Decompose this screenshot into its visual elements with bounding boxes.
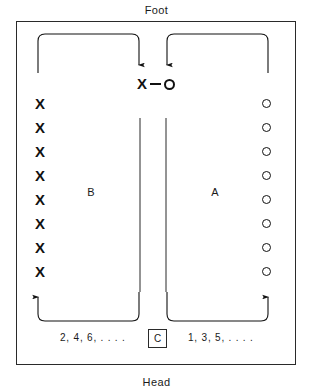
bed-mark-o xyxy=(262,116,271,140)
center-pair-o-mark xyxy=(164,79,175,90)
bed-mark-x: X xyxy=(35,188,45,212)
station-label-c: C xyxy=(148,329,167,348)
bed-mark-x: X xyxy=(35,236,45,260)
head-orientation-label: Head xyxy=(0,375,313,389)
bed-mark-o xyxy=(262,260,271,284)
bed-mark-x: X xyxy=(35,116,45,140)
bed-mark-x: X xyxy=(35,260,45,284)
bed-mark-x: X xyxy=(35,140,45,164)
center-pair-connector xyxy=(150,83,161,85)
bed-mark-o xyxy=(262,140,271,164)
section-b-mark-column: X X X X X X X X xyxy=(29,92,51,284)
section-label-a: A xyxy=(205,186,225,198)
bed-mark-x: X xyxy=(35,212,45,236)
center-bed-pair: X xyxy=(126,74,186,94)
bed-mark-o xyxy=(262,188,271,212)
center-pair-x-mark: X xyxy=(137,74,147,94)
bed-mark-o xyxy=(262,92,271,116)
ward-diagram: Foot X X X X X X X X xyxy=(0,0,313,392)
bed-numbers-even-label: 2, 4, 6, . . . . xyxy=(60,332,126,343)
bed-mark-x: X xyxy=(35,164,45,188)
section-label-b: B xyxy=(81,186,101,198)
bed-mark-o xyxy=(262,212,271,236)
foot-orientation-label: Foot xyxy=(0,3,313,17)
bed-numbers-odd-label: 1, 3, 5, . . . . xyxy=(188,332,254,343)
bed-mark-o xyxy=(262,164,271,188)
section-a-mark-column xyxy=(255,92,277,284)
ward-outer-border xyxy=(16,21,296,365)
bed-mark-x: X xyxy=(35,92,45,116)
bed-mark-o xyxy=(262,236,271,260)
